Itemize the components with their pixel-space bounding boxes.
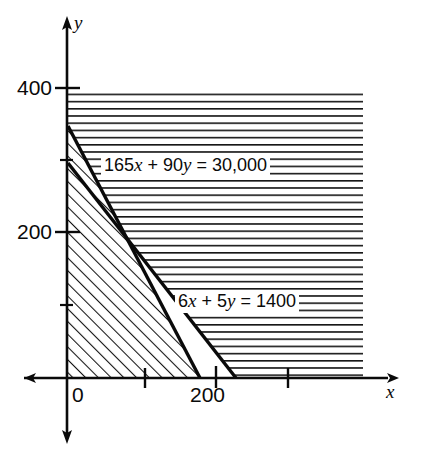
eq1-plus: + (148, 155, 159, 175)
equation-label-6x-5y-1400: 6x + 5y = 1400 (175, 290, 299, 313)
eq1-equals: = (197, 155, 208, 175)
eq1-var-y: y (183, 154, 191, 175)
eq2-equals: = (240, 291, 251, 311)
y-axis-name: y (74, 12, 82, 34)
eq2-plus: + (201, 291, 212, 311)
eq2-rhs: 1400 (256, 291, 296, 311)
eq2-coef-y: 5 (217, 291, 227, 311)
eq2-var-y: y (227, 290, 235, 311)
eq2-var-x: x (188, 290, 196, 311)
origin-label: 0 (72, 383, 84, 407)
eq1-coef-y: 90 (163, 155, 183, 175)
eq1-var-x: x (134, 154, 142, 175)
x-axis-tick-label-200: 200 (190, 383, 225, 407)
eq1-coef-x: 165 (104, 155, 134, 175)
equation-label-165x-90y-30000: 165x + 90y = 30,000 (101, 154, 270, 177)
graph-figure: 400 200 0 200 y x 165x + 90y = 30,000 6x… (0, 0, 421, 455)
y-axis-tick-label-400: 400 (17, 76, 52, 100)
y-axis-tick-label-200: 200 (17, 220, 52, 244)
eq1-rhs: 30,000 (212, 155, 267, 175)
x-axis-name: x (386, 381, 394, 403)
eq2-coef-x: 6 (178, 291, 188, 311)
